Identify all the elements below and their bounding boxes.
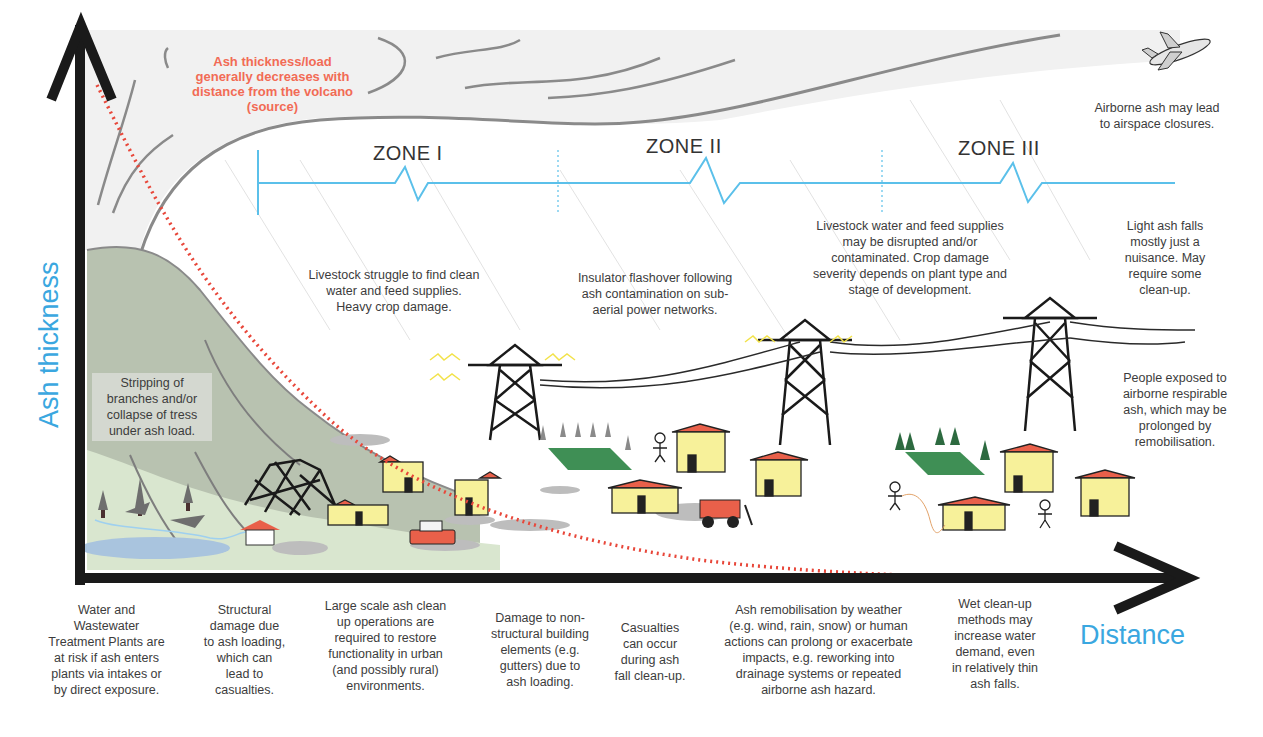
- note-respirable-ash: People exposed to airborne respirable as…: [1110, 370, 1240, 450]
- bottom-note-cleanup: Large scale ash clean up operations are …: [308, 598, 463, 694]
- bottom-note-casualties: Casualties can occur during ash fall cle…: [606, 620, 694, 684]
- bottom-note-structural: Structural damage due to ash loading, wh…: [192, 602, 297, 698]
- zone-label-1: ZONE I: [373, 142, 443, 165]
- bottom-note-water-treatment: Water and Wastewater Treatment Plants ar…: [34, 602, 179, 698]
- zone-label-3: ZONE III: [958, 137, 1040, 160]
- bottom-note-nonstructural: Damage to non- structural building eleme…: [475, 610, 605, 690]
- note-zone1-livestock: Livestock struggle to find clean water a…: [284, 267, 504, 315]
- treatment-plant: [246, 530, 274, 545]
- note-insulator: Insulator flashover following ash contam…: [555, 270, 755, 318]
- note-zone3-livestock: Livestock water and feed supplies may be…: [790, 218, 1030, 298]
- note-light-ash: Light ash falls mostly just a nuisance. …: [1115, 218, 1215, 298]
- field-zone3: [905, 452, 985, 475]
- car: [410, 530, 455, 544]
- decay-note: Ash thickness/load generally decreases w…: [160, 54, 385, 114]
- power-pylons: [468, 298, 1097, 445]
- note-trees: Stripping of branches and/or collapse of…: [92, 373, 212, 441]
- lake: [80, 537, 230, 559]
- note-airspace: Airborne ash may lead to airspace closur…: [1082, 100, 1232, 132]
- zone-label-2: ZONE II: [646, 135, 722, 158]
- bottom-note-wet-cleanup: Wet clean-up methods may increase water …: [940, 596, 1050, 692]
- y-axis-label: Ash thickness: [34, 261, 65, 428]
- x-axis-label: Distance: [1080, 620, 1185, 651]
- tractor: [700, 500, 740, 518]
- field-zone2: [548, 448, 632, 470]
- bottom-note-remobilisation: Ash remobilisation by weather (e.g. wind…: [706, 602, 931, 698]
